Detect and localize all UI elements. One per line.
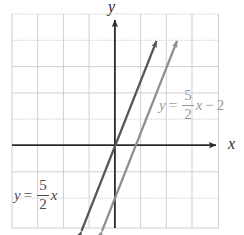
- x-axis-label: x: [228, 135, 235, 153]
- line2-numerator: 5: [182, 88, 194, 105]
- equation-label-line1: y = 5 2 x: [14, 178, 57, 213]
- y-axis-label: y: [108, 0, 115, 16]
- line2-fraction: 5 2: [182, 88, 194, 123]
- line2-constant: 2: [217, 98, 225, 113]
- line2-lhs: y: [159, 98, 166, 113]
- line2-operator: −: [205, 98, 213, 113]
- line2-equals: =: [169, 98, 177, 113]
- graph-figure: y x y = 5 2 x y = 5 2 x − 2: [0, 0, 244, 235]
- line1-fraction: 5 2: [37, 178, 49, 213]
- line1-numerator: 5: [37, 178, 49, 195]
- line1-variable: x: [51, 188, 58, 203]
- line2-denominator: 2: [182, 106, 194, 123]
- line-y-equals-five-halves-x-minus-two: [102, 41, 177, 231]
- line1-lhs: y: [14, 188, 21, 203]
- plotted-lines: [82, 41, 178, 231]
- line1-equals: =: [24, 188, 32, 203]
- equation-label-line2: y = 5 2 x − 2: [159, 88, 224, 123]
- line1-denominator: 2: [37, 196, 49, 213]
- line2-variable: x: [196, 98, 203, 113]
- line-y-equals-five-halves-x: [82, 41, 157, 231]
